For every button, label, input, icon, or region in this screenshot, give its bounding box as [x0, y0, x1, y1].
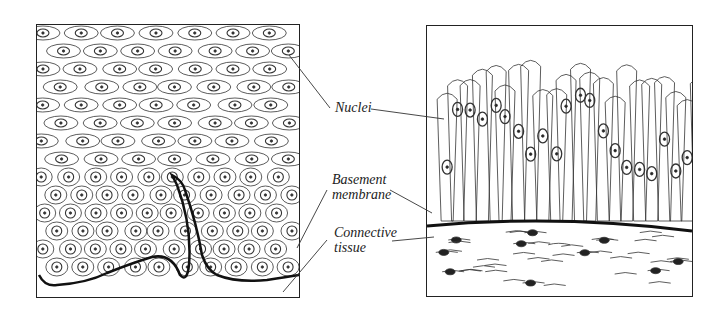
connective-label-line2: tissue — [334, 240, 397, 255]
basement-label-line1: Basement — [332, 172, 391, 187]
columnar-cells-drawing — [427, 26, 692, 296]
squamous-cells-drawing — [37, 25, 299, 297]
connective-tissue-label: Connective tissue — [334, 225, 397, 255]
basement-label-line2: membrane — [332, 187, 391, 202]
left-panel-squamous-epithelium — [36, 24, 300, 298]
nuclei-label: Nuclei — [335, 100, 372, 115]
connective-label-line1: Connective — [334, 225, 397, 240]
right-panel-columnar-epithelium — [426, 25, 693, 297]
basement-membrane-label: Basement membrane — [332, 172, 391, 202]
